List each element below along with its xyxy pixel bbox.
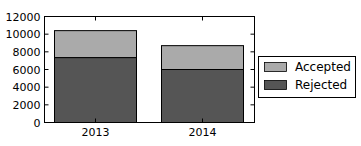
bar-rejected-2014 bbox=[162, 70, 244, 123]
y-tick-label: 12000 bbox=[6, 11, 41, 24]
y-tick-label: 2000 bbox=[13, 99, 41, 112]
legend-swatch-rejected bbox=[265, 81, 287, 90]
legend-swatch-accepted bbox=[265, 63, 287, 72]
bar-accepted-2013 bbox=[55, 31, 137, 58]
bars-group bbox=[55, 31, 244, 123]
legend: Accepted Rejected bbox=[259, 57, 356, 98]
stacked-bar-chart: 020004000600080001000012000 20132014 Acc… bbox=[0, 0, 361, 146]
bar-rejected-2013 bbox=[55, 58, 137, 123]
y-tick-label: 10000 bbox=[6, 28, 41, 41]
y-tick-label: 0 bbox=[34, 117, 41, 130]
x-tick-label: 2014 bbox=[189, 126, 217, 139]
legend-label-accepted: Accepted bbox=[295, 60, 351, 74]
y-tick-label: 8000 bbox=[13, 46, 41, 59]
y-tick-label: 6000 bbox=[13, 64, 41, 77]
y-tick-label: 4000 bbox=[13, 81, 41, 94]
legend-label-rejected: Rejected bbox=[295, 78, 347, 92]
x-tick-label: 2013 bbox=[82, 126, 110, 139]
bar-accepted-2014 bbox=[162, 46, 244, 70]
